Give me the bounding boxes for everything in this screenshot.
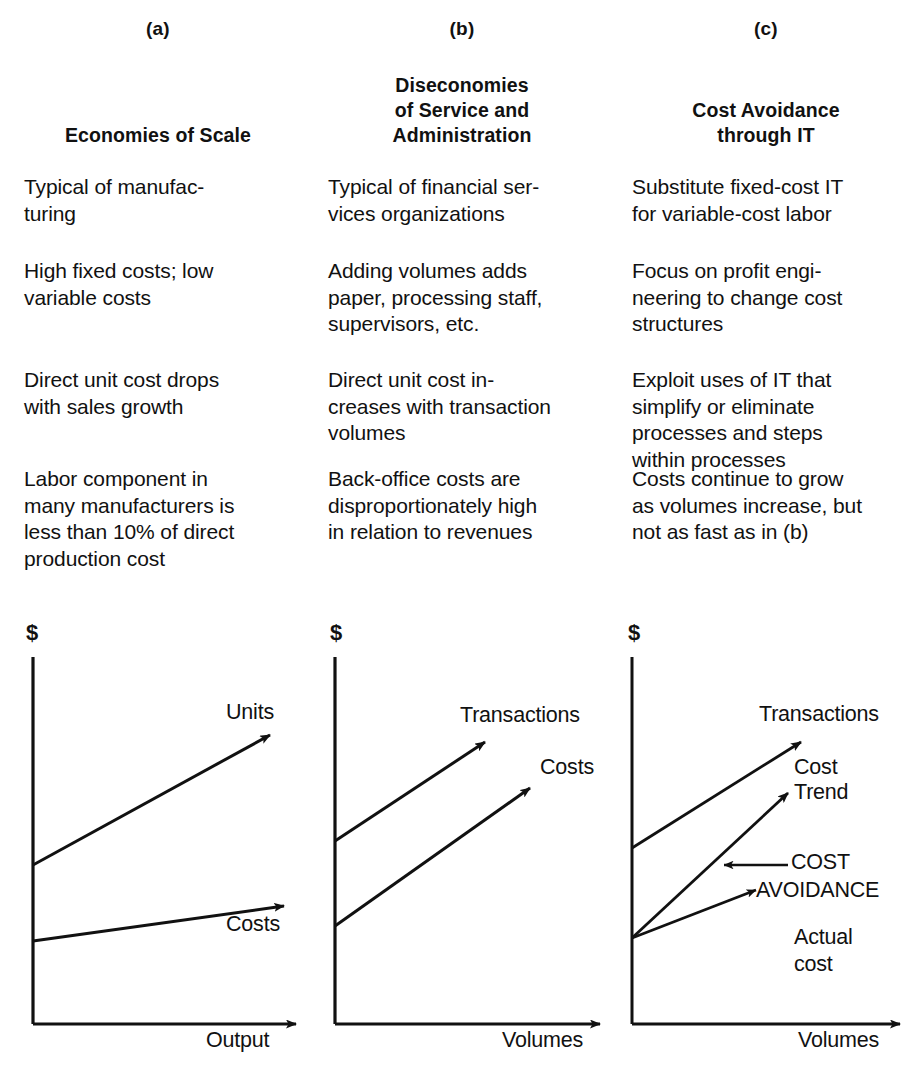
panel-c-chart: $	[616, 600, 916, 1071]
panel-a-title: Economies of Scale	[8, 52, 308, 148]
panel-b-chart-svg	[312, 600, 612, 1071]
panel-a-p4-line-2: many manufacturers is	[24, 493, 314, 520]
panel-c-letter: (c)	[616, 18, 916, 40]
panel-c-series-label-cost-trend-line-2: Trend	[794, 780, 848, 805]
panel-a-p4-line-1: Labor component in	[24, 466, 314, 493]
panel-b-paragraph-2: Adding volumes adds paper, processing st…	[328, 258, 618, 338]
panel-b-x-axis-label: Volumes	[502, 1028, 583, 1053]
panel-c-p1-line-1: Substitute fixed-cost IT	[632, 174, 922, 201]
panel-b-p2-line-2: paper, processing staff,	[328, 285, 618, 312]
panel-c-title: Cost Avoidance through IT	[616, 52, 916, 148]
panel-c-p2-line-2: neering to change cost	[632, 285, 922, 312]
panel-c-annotation-cost-avoidance-line-2: AVOIDANCE	[756, 878, 879, 903]
panel-a-p2-line-2: variable costs	[24, 285, 314, 312]
panel-c-p2-line-3: structures	[632, 311, 922, 338]
panel-c-paragraph-1: Substitute fixed-cost IT for variable-co…	[632, 174, 922, 227]
panel-c-paragraph-2: Focus on profit engi- neering to change …	[632, 258, 922, 338]
panel-b-paragraph-3: Direct unit cost in- creases with transa…	[328, 367, 618, 447]
panel-b-letter: (b)	[312, 18, 612, 40]
figure-page: (a) Economies of Scale Typical of manufa…	[0, 0, 924, 1071]
panel-b-paragraph-1: Typical of financial ser- vices organiza…	[328, 174, 618, 227]
panel-c-title-line-1: Cost Avoidance	[692, 98, 839, 123]
panel-c-p4-line-1: Costs continue to grow	[632, 466, 922, 493]
panel-a-p3-line-1: Direct unit cost drops	[24, 367, 314, 394]
panel-b-p3-line-2: creases with transaction	[328, 394, 618, 421]
panel-c-p4-line-2: as volumes increase, but	[632, 493, 922, 520]
panel-a-title-line-1: Economies of Scale	[65, 123, 251, 148]
panel-c-series-label-actual-cost-line-2: cost	[794, 952, 833, 977]
panel-c-p2-line-1: Focus on profit engi-	[632, 258, 922, 285]
panel-c-series-transactions-line	[632, 742, 801, 848]
panel-a-letter: (a)	[8, 18, 308, 40]
panel-b-chart: $ Transactions Costs Volumes	[312, 600, 612, 1071]
panel-c-title-line-2: through IT	[717, 123, 814, 148]
panel-a-paragraph-3: Direct unit cost drops with sales growth	[24, 367, 314, 420]
panel-c-paragraph-3: Exploit uses of IT that simplify or elim…	[632, 367, 922, 473]
panel-a: (a) Economies of Scale Typical of manufa…	[8, 0, 308, 1071]
panel-a-p4-line-4: production cost	[24, 546, 314, 573]
panel-c: (c) Cost Avoidance through IT Substitute…	[616, 0, 916, 1071]
panel-c-chart-svg	[616, 600, 916, 1071]
panel-c-p1-line-2: for variable-cost labor	[632, 201, 922, 228]
panel-b-title: Diseconomies of Service and Administrati…	[312, 52, 612, 148]
panel-a-p2-line-1: High fixed costs; low	[24, 258, 314, 285]
panel-a-p4-line-3: less than 10% of direct	[24, 519, 314, 546]
panel-b-title-line-3: Administration	[393, 123, 532, 148]
panel-b-series-costs-line	[335, 788, 530, 926]
panel-c-p3-line-2: simplify or eliminate	[632, 394, 922, 421]
panel-a-paragraph-4: Labor component in many manufacturers is…	[24, 466, 314, 572]
panel-a-series-units-line	[33, 735, 270, 865]
panel-a-series-label-costs: Costs	[226, 912, 280, 937]
panel-c-series-label-actual-cost-line-1: Actual	[794, 925, 853, 950]
panel-a-x-axis-label: Output	[206, 1028, 269, 1053]
panel-c-p3-line-3: processes and steps	[632, 420, 922, 447]
panel-b-p2-line-1: Adding volumes adds	[328, 258, 618, 285]
panel-c-x-axis-label: Volumes	[798, 1028, 879, 1053]
panel-a-p1-line-2: turing	[24, 201, 314, 228]
panel-b-series-label-costs: Costs	[540, 755, 594, 780]
panel-c-series-actual-cost-line	[632, 890, 756, 938]
panel-b-p3-line-1: Direct unit cost in-	[328, 367, 618, 394]
panel-a-paragraph-2: High fixed costs; low variable costs	[24, 258, 314, 311]
panel-b-paragraph-4: Back-office costs are disproportionately…	[328, 466, 618, 546]
panel-a-p1-line-1: Typical of manufac-	[24, 174, 314, 201]
panel-c-annotation-cost-avoidance-line-1: COST	[791, 850, 850, 875]
panel-c-series-label-cost-trend-line-1: Cost	[794, 755, 837, 780]
panel-b: (b) Diseconomies of Service and Administ…	[312, 0, 612, 1071]
panel-a-series-label-units: Units	[226, 700, 274, 725]
panel-b-p3-line-3: volumes	[328, 420, 618, 447]
panel-a-chart-svg	[8, 600, 308, 1071]
panel-b-p1-line-2: vices organizations	[328, 201, 618, 228]
panel-a-paragraph-1: Typical of manufac- turing	[24, 174, 314, 227]
panel-b-p1-line-1: Typical of financial ser-	[328, 174, 618, 201]
panel-c-series-label-transactions: Transactions	[759, 702, 879, 727]
panel-b-p4-line-2: disproportionately high	[328, 493, 618, 520]
panel-a-p3-line-2: with sales growth	[24, 394, 314, 421]
panel-b-p2-line-3: supervisors, etc.	[328, 311, 618, 338]
panel-b-series-transactions-line	[335, 742, 485, 841]
panel-c-paragraph-4: Costs continue to grow as volumes increa…	[632, 466, 922, 546]
panel-b-p4-line-3: in relation to revenues	[328, 519, 618, 546]
panel-b-series-label-transactions: Transactions	[460, 703, 580, 728]
panel-c-p3-line-1: Exploit uses of IT that	[632, 367, 922, 394]
panel-b-title-line-1: Diseconomies	[395, 73, 528, 98]
panel-b-title-line-2: of Service and	[395, 98, 530, 123]
panel-a-chart: $ Units Costs Output	[8, 600, 308, 1071]
panel-c-p4-line-3: not as fast as in (b)	[632, 519, 922, 546]
panel-b-p4-line-1: Back-office costs are	[328, 466, 618, 493]
